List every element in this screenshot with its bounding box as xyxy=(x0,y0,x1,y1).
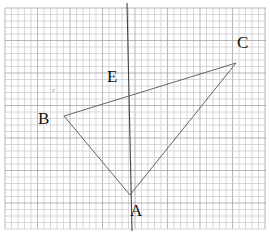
label-b: B xyxy=(38,109,49,128)
label-e: E xyxy=(107,67,117,86)
label-c: C xyxy=(237,33,248,52)
label-a: A xyxy=(130,201,143,220)
grid-diagram: A B C E xyxy=(0,0,270,234)
